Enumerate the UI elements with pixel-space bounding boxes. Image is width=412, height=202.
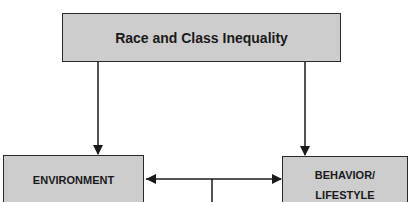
node-environment: ENVIRONMENT bbox=[3, 155, 144, 202]
node-label: ENVIRONMENT bbox=[33, 174, 114, 186]
node-behavior-lifestyle: BEHAVIOR/LIFESTYLE bbox=[282, 156, 408, 202]
node-label: Race and Class Inequality bbox=[115, 30, 288, 46]
node-race-class-inequality: Race and Class Inequality bbox=[62, 13, 341, 62]
arrowhead-left-icon bbox=[146, 174, 156, 184]
node-label-line2: LIFESTYLE bbox=[315, 185, 375, 202]
node-label-line1: BEHAVIOR/ bbox=[315, 165, 375, 185]
